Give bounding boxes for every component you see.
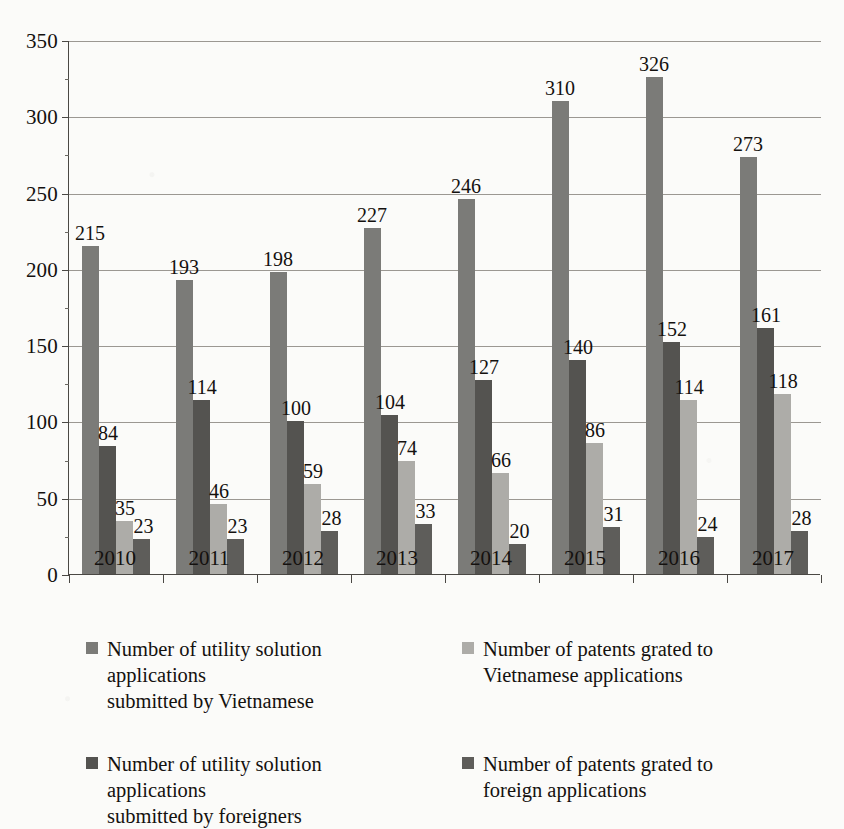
legend-item[interactable]: Number of patents grated toforeign appli…	[462, 751, 826, 829]
legend-label: Number of patents grated toVietnamese ap…	[483, 636, 713, 688]
x-tick-mark	[163, 575, 164, 583]
bar[interactable]: 193	[176, 280, 193, 574]
bar-value-label: 227	[357, 205, 387, 225]
y-tick-label: 0	[0, 563, 58, 588]
y-tick-mark	[62, 194, 69, 195]
y-tick-minor	[65, 384, 69, 385]
x-tick-mark	[539, 575, 540, 583]
bar[interactable]: 215	[82, 246, 99, 574]
bar-value-label: 140	[563, 337, 593, 357]
x-tick-mark	[821, 575, 822, 583]
bar-group: 2271047433	[364, 228, 432, 574]
y-tick-minor	[65, 155, 69, 156]
bar-group: 3101408631	[552, 101, 620, 574]
x-tick-mark	[727, 575, 728, 583]
bar-value-label: 198	[263, 249, 293, 269]
bar-group: 2461276620	[458, 199, 526, 574]
bar-value-label: 114	[187, 377, 216, 397]
bar-value-label: 20	[510, 521, 530, 541]
bar-value-label: 35	[115, 498, 135, 518]
bar-value-label: 24	[698, 514, 718, 534]
bar-value-label: 23	[228, 516, 248, 536]
bar-value-label: 127	[469, 357, 499, 377]
gridline	[69, 41, 821, 42]
y-tick-mark	[62, 270, 69, 271]
bar-value-label: 84	[98, 423, 118, 443]
y-tick-mark	[62, 499, 69, 500]
bar-group: 1981005928	[270, 272, 338, 574]
legend-item[interactable]: Number of utility solution applicationss…	[86, 636, 462, 715]
y-tick-label: 300	[0, 105, 58, 130]
legend-label: Number of utility solution applicationss…	[107, 751, 417, 829]
bar-value-label: 46	[209, 481, 229, 501]
bar-value-label: 118	[768, 371, 797, 391]
chart-legend: Number of utility solution applicationss…	[86, 636, 826, 829]
x-tick-mark	[351, 575, 352, 583]
legend-label: Number of utility solution applicationss…	[107, 636, 417, 715]
bar-group: 1931144623	[176, 280, 244, 574]
plot-area: 2158435231931144623198100592822710474332…	[68, 41, 820, 575]
legend-item[interactable]: Number of utility solution applicationss…	[86, 751, 462, 829]
y-tick-mark	[62, 422, 69, 423]
bar-group: 27316111828	[740, 157, 808, 574]
bar[interactable]: 140	[569, 360, 586, 574]
bar[interactable]: 273	[740, 157, 757, 574]
bar-value-label: 28	[322, 508, 342, 528]
y-tick-minor	[65, 537, 69, 538]
legend-item[interactable]: Number of patents grated toVietnamese ap…	[462, 636, 826, 715]
y-tick-mark	[62, 575, 69, 576]
y-tick-label: 200	[0, 257, 58, 282]
bar-value-label: 31	[604, 504, 624, 524]
bar-value-label: 28	[792, 508, 812, 528]
legend-label: Number of patents grated toforeign appli…	[483, 751, 713, 803]
bar-value-label: 273	[733, 134, 763, 154]
bar-value-label: 152	[657, 319, 687, 339]
y-tick-minor	[65, 308, 69, 309]
bar-group: 32615211424	[646, 77, 714, 574]
bar-value-label: 215	[75, 223, 105, 243]
bar-value-label: 59	[303, 461, 323, 481]
bar-value-label: 23	[134, 516, 154, 536]
bar[interactable]: 198	[270, 272, 287, 574]
x-tick-mark	[257, 575, 258, 583]
y-tick-mark	[62, 41, 69, 42]
y-tick-label: 50	[0, 486, 58, 511]
bar[interactable]: 161	[757, 328, 774, 574]
y-tick-minor	[65, 232, 69, 233]
bar-value-label: 104	[375, 392, 405, 412]
bar-value-label: 74	[397, 438, 417, 458]
y-tick-label: 350	[0, 29, 58, 54]
bar-value-label: 33	[416, 501, 436, 521]
legend-swatch-icon	[462, 757, 474, 769]
y-tick-minor	[65, 79, 69, 80]
x-tick-mark	[69, 575, 70, 583]
bar-value-label: 193	[169, 257, 199, 277]
legend-swatch-icon	[86, 757, 98, 769]
bar-value-label: 114	[674, 377, 703, 397]
bar[interactable]: 246	[458, 199, 475, 574]
bar-value-label: 246	[451, 176, 481, 196]
x-tick-mark	[633, 575, 634, 583]
bar-value-label: 161	[751, 305, 781, 325]
y-tick-minor	[65, 461, 69, 462]
legend-swatch-icon	[462, 642, 474, 654]
bar-group: 215843523	[82, 246, 150, 574]
bar[interactable]: 127	[475, 380, 492, 574]
y-tick-mark	[62, 346, 69, 347]
x-tick-mark	[445, 575, 446, 583]
bar-value-label: 326	[639, 54, 669, 74]
y-tick-label: 100	[0, 410, 58, 435]
y-tick-label: 150	[0, 334, 58, 359]
bar-value-label: 86	[585, 420, 605, 440]
x-axis-label-2017: 2017	[713, 546, 833, 571]
y-tick-mark	[62, 117, 69, 118]
bar-value-label: 310	[545, 78, 575, 98]
bar-value-label: 66	[491, 450, 511, 470]
bar-value-label: 100	[281, 398, 311, 418]
y-tick-label: 250	[0, 181, 58, 206]
legend-swatch-icon	[86, 642, 98, 654]
